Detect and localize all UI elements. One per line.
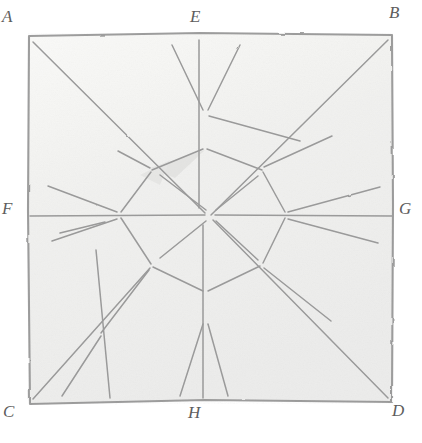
label-midpoint-E: E [190, 8, 201, 25]
crease-horizontal-left [30, 215, 205, 216]
crease-horizontal-right [215, 215, 392, 216]
label-midpoint-G: G [399, 200, 412, 217]
label-midpoint-H: H [188, 404, 201, 421]
figure-canvas: A B C D E F G H [0, 0, 422, 443]
label-corner-B: B [389, 4, 400, 21]
crease-pattern-svg [0, 0, 422, 443]
label-corner-C: C [3, 403, 15, 420]
label-midpoint-F: F [2, 200, 13, 217]
label-corner-A: A [2, 8, 13, 25]
label-corner-D: D [392, 402, 405, 419]
